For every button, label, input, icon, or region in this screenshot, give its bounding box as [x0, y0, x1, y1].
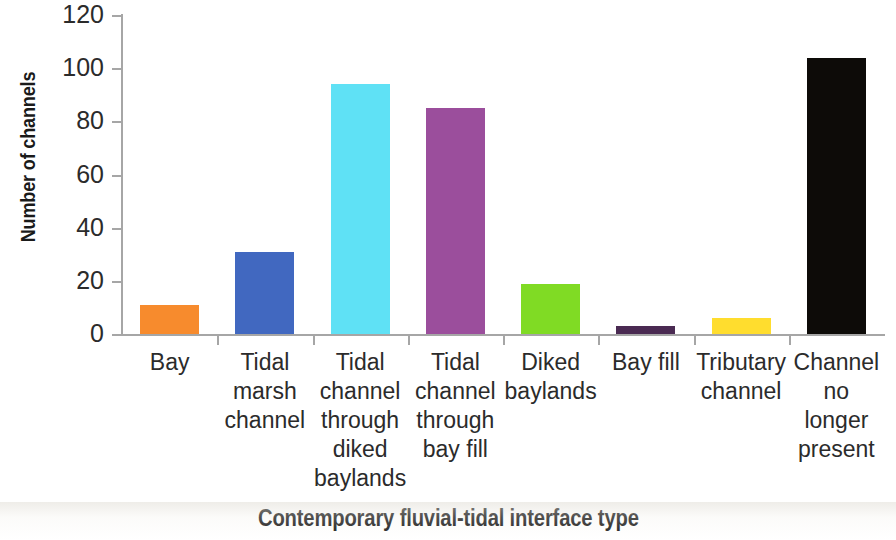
- bar: [140, 305, 199, 334]
- y-axis-tick-label: 60: [4, 162, 104, 187]
- x-axis-category-label: Tidalmarshchannel: [210, 348, 319, 435]
- x-axis-category-label: Dikedbaylands: [496, 348, 605, 406]
- x-axis-category-labels: BayTidalmarshchannelTidalchannelthroughd…: [122, 348, 884, 498]
- x-axis-category-label-line: channel: [401, 377, 510, 406]
- x-axis-tick-mark: [408, 336, 410, 345]
- x-axis-category-label-line: channel: [210, 406, 319, 435]
- x-axis-tick-mark: [503, 336, 505, 345]
- y-axis-tick-mark: [112, 175, 122, 177]
- x-axis-category-label-line: bay fill: [401, 435, 510, 464]
- bar: [426, 108, 485, 334]
- x-axis-category-label-line: through: [401, 406, 510, 435]
- x-axis-title-text: Contemporary fluvial-tidal interface typ…: [258, 505, 639, 532]
- y-axis-tick-mark: [112, 15, 122, 17]
- x-axis-category-label-line: longer: [782, 406, 891, 435]
- x-axis-tick-mark: [694, 336, 696, 345]
- x-axis-category-label: Tributarychannel: [687, 348, 796, 406]
- bar: [712, 318, 771, 334]
- y-axis-tick-mark: [112, 334, 122, 336]
- bars-layer: [122, 15, 884, 334]
- y-axis-tick-labels: 020406080100120: [0, 0, 104, 540]
- x-axis-category-label-line: marsh: [210, 377, 319, 406]
- x-axis-category-label-line: Tidal: [210, 348, 319, 377]
- bar-chart-figure: Number of channels 020406080100120 BayTi…: [0, 0, 896, 540]
- x-axis-category-label-line: Bay: [115, 348, 224, 377]
- x-axis-tick-mark: [789, 336, 791, 345]
- x-axis-tick-mark: [313, 336, 315, 345]
- y-axis-tick-label: 0: [4, 321, 104, 346]
- x-axis-tick-mark: [217, 336, 219, 345]
- bar: [521, 284, 580, 335]
- bar: [616, 326, 675, 334]
- y-axis-tick-mark: [112, 68, 122, 70]
- x-axis-category-label-line: Tidal: [306, 348, 415, 377]
- y-axis-tick-label: 40: [4, 215, 104, 240]
- x-axis-category-label-line: present: [782, 435, 891, 464]
- x-axis-tick-mark: [598, 336, 600, 345]
- y-axis-tick-mark: [112, 281, 122, 283]
- x-axis-category-label: Tidalchannelthroughbay fill: [401, 348, 510, 464]
- x-axis-category-label: Tidalchannelthroughdikedbaylands: [306, 348, 415, 493]
- x-axis-category-label-line: baylands: [306, 464, 415, 493]
- x-axis-category-label-line: baylands: [496, 377, 605, 406]
- y-axis-tick-mark: [112, 121, 122, 123]
- y-axis-tick-label: 20: [4, 268, 104, 293]
- x-axis-category-label-line: channel: [306, 377, 415, 406]
- y-axis-tick-label: 120: [4, 2, 104, 27]
- x-axis-category-label: Bay: [115, 348, 224, 377]
- x-axis-category-label-line: Tidal: [401, 348, 510, 377]
- x-axis-category-label-line: channel: [687, 377, 796, 406]
- bar: [235, 252, 294, 334]
- bar: [331, 84, 390, 334]
- y-axis-tick-label: 80: [4, 108, 104, 133]
- x-axis-category-label: Bay fill: [591, 348, 700, 377]
- x-axis-category-label-line: Channel: [782, 348, 891, 377]
- x-axis-category-label-line: Tributary: [687, 348, 796, 377]
- y-axis-tick-label: 100: [4, 55, 104, 80]
- x-axis-category-label-line: diked: [306, 435, 415, 464]
- x-axis-title: Contemporary fluvial-tidal interface typ…: [0, 505, 896, 532]
- y-axis-tick-mark: [112, 228, 122, 230]
- x-axis-category-label-line: no: [782, 377, 891, 406]
- x-axis-category-label-line: through: [306, 406, 415, 435]
- bar: [807, 58, 866, 334]
- x-axis-category-label-line: Bay fill: [591, 348, 700, 377]
- x-axis-category-label-line: Diked: [496, 348, 605, 377]
- x-axis-category-label: Channelnolongerpresent: [782, 348, 891, 464]
